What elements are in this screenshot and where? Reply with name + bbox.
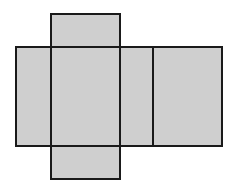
face-front bbox=[51, 47, 120, 146]
face-top-flap bbox=[51, 14, 120, 47]
face-back bbox=[153, 47, 222, 146]
face-left-side bbox=[16, 47, 51, 146]
box-net-diagram bbox=[0, 0, 231, 187]
face-bottom-flap bbox=[51, 146, 120, 179]
face-right-side bbox=[120, 47, 153, 146]
